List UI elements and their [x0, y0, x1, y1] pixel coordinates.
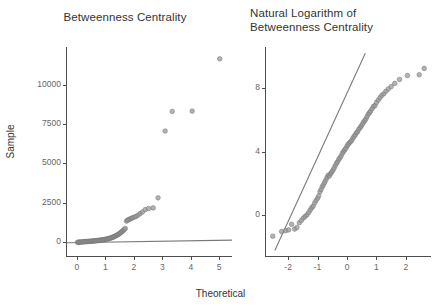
- panel-title-right: Natural Logarithm of Betweenness Central…: [250, 6, 430, 34]
- y-axis-line: [66, 47, 67, 256]
- qq-data-point: [417, 72, 422, 77]
- y-axis-tick-label: 0: [17, 236, 61, 246]
- x-axis-tick: [191, 257, 192, 260]
- y-axis-tick-label: 0: [216, 209, 260, 219]
- x-axis-tick: [134, 257, 135, 260]
- x-axis-tick: [288, 257, 289, 260]
- y-axis-tick: [262, 152, 265, 153]
- y-axis-tick: [63, 242, 66, 243]
- y-axis-tick: [262, 88, 265, 89]
- x-axis-tick: [347, 257, 348, 260]
- qq-data-point: [392, 81, 397, 86]
- x-axis-tick: [376, 257, 377, 260]
- qq-data-point: [286, 228, 291, 233]
- x-axis-title: Theoretical: [0, 288, 441, 299]
- qq-data-point: [151, 206, 156, 211]
- qq-data-point: [289, 222, 294, 227]
- qq-data-point: [270, 234, 275, 239]
- qq-plot-figure: Betweenness Centrality 02500500075001000…: [0, 0, 441, 308]
- y-axis-line: [265, 47, 266, 256]
- qq-data-point: [397, 77, 402, 82]
- qq-data-point: [163, 129, 168, 134]
- x-axis-tick: [406, 257, 407, 260]
- qq-data-point: [279, 229, 284, 234]
- plot-area-left: [67, 47, 232, 256]
- plot-area-right: [266, 47, 431, 256]
- x-axis-tick: [219, 257, 220, 260]
- y-axis-tick: [262, 215, 265, 216]
- qq-data-point: [146, 206, 151, 211]
- panel-title-left: Betweenness Centrality: [18, 10, 232, 24]
- y-axis-tick-label: 7500: [17, 118, 61, 128]
- qq-data-point: [123, 226, 128, 231]
- y-axis-tick: [63, 203, 66, 204]
- y-axis-tick-label: 8: [216, 82, 260, 92]
- qq-data-point: [170, 109, 175, 114]
- x-axis-tick: [318, 257, 319, 260]
- qq-data-point: [156, 196, 161, 201]
- y-axis-tick: [63, 124, 66, 125]
- x-axis-tick: [77, 257, 78, 260]
- qq-scatter-right: [266, 47, 431, 256]
- y-axis-tick: [63, 85, 66, 86]
- y-axis-tick: [63, 163, 66, 164]
- x-axis-tick-label: 2: [386, 262, 426, 272]
- y-axis-tick-label: 4: [216, 146, 260, 156]
- qq-data-point: [217, 56, 222, 61]
- qq-data-point: [190, 109, 195, 114]
- panel-betweenness-centrality: Betweenness Centrality 02500500075001000…: [0, 0, 232, 308]
- x-axis-tick: [105, 257, 106, 260]
- qq-data-point: [295, 225, 300, 230]
- y-axis-tick-label: 2500: [17, 197, 61, 207]
- y-axis-tick-label: 10000: [17, 79, 61, 89]
- qq-data-point: [405, 73, 410, 78]
- y-axis-title: Sample: [5, 112, 16, 172]
- qq-data-point: [422, 66, 427, 71]
- qq-reference-line: [275, 53, 365, 250]
- x-axis-line: [66, 256, 232, 257]
- x-axis-tick: [162, 257, 163, 260]
- qq-scatter-left: [67, 47, 232, 256]
- y-axis-tick-label: 5000: [17, 157, 61, 167]
